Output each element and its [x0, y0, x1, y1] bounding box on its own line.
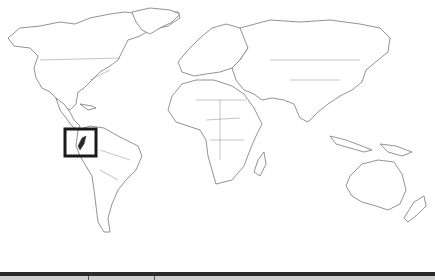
caribbean — [80, 104, 96, 110]
southeast-asia-islands — [330, 136, 372, 152]
new-zealand — [404, 196, 426, 222]
footer-tick — [154, 276, 155, 280]
africa — [168, 80, 262, 184]
australia — [346, 160, 406, 210]
footer-tick — [88, 276, 89, 280]
south-america — [76, 126, 142, 232]
footer-band — [0, 276, 435, 280]
madagascar — [254, 152, 266, 176]
world-map — [0, 0, 435, 280]
continents — [8, 8, 426, 232]
asia — [232, 20, 390, 122]
new-guinea — [380, 144, 412, 156]
